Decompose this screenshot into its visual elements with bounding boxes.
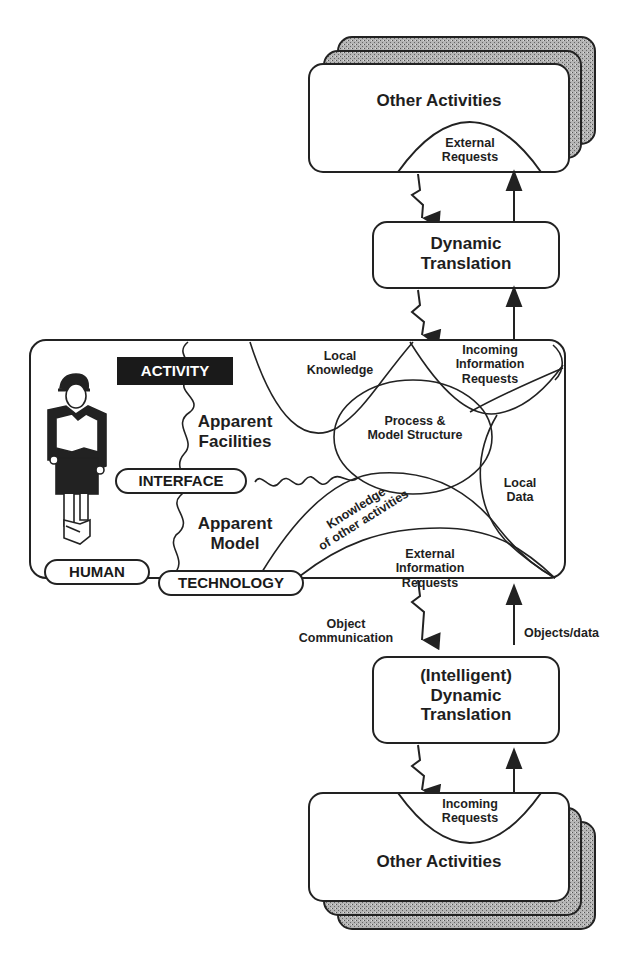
apparent-model-line-1: Apparent [190,514,280,534]
objects-data-label: Objects/data [524,626,624,640]
bottom-lower-arrows [412,745,521,793]
top-translation-line-2: Translation [373,254,559,274]
incoming-info-line-3: Requests [435,372,545,386]
incoming-requests-line-1: Incoming [420,797,520,811]
human-pill: HUMAN [44,559,150,585]
activity-badge: ACTIVITY [117,357,233,385]
interface-pill: INTERFACE [115,468,247,494]
local-data-label: Local Data [490,476,550,505]
technology-pill: TECHNOLOGY [158,570,304,596]
external-requests-label: External Requests [420,136,520,165]
bottom-stack-title: Other Activities [309,852,569,872]
intelligent-translation-line-3: Translation [373,705,559,725]
process-model-line-2: Model Structure [350,428,480,442]
apparent-facilities-label: Apparent Facilities [190,412,280,451]
top-translation-line-1: Dynamic [373,234,559,254]
intelligent-translation-line-2: Dynamic [373,686,559,706]
external-requests-line-2: Requests [420,150,520,164]
process-model-structure-label: Process & Model Structure [350,414,480,443]
local-data-line-2: Data [490,490,550,504]
apparent-facilities-line-2: Facilities [190,432,280,452]
apparent-facilities-line-1: Apparent [190,412,280,432]
incoming-info-line-1: Incoming [435,343,545,357]
local-knowledge-line-1: Local [290,349,390,363]
top-arrows [412,172,521,222]
local-data-line-1: Local [490,476,550,490]
incoming-information-requests-label: Incoming Information Requests [435,343,545,386]
external-information-requests-label: External Information Requests [380,547,480,590]
apparent-model-line-2: Model [190,534,280,554]
intelligent-translation-label: (Intelligent) Dynamic Translation [373,666,559,725]
top-stack-title: Other Activities [309,91,569,111]
process-model-line-1: Process & [350,414,480,428]
external-requests-line-1: External [420,136,520,150]
translation-to-activity-arrows [412,288,521,340]
external-info-line-3: Requests [380,576,480,590]
incoming-requests-line-2: Requests [420,811,520,825]
incoming-info-line-2: Information [435,357,545,371]
external-info-line-1: External [380,547,480,561]
intelligent-translation-line-1: (Intelligent) [373,666,559,686]
external-info-line-2: Information [380,561,480,575]
apparent-model-label: Apparent Model [190,514,280,553]
incoming-requests-label: Incoming Requests [420,797,520,826]
local-knowledge-label: Local Knowledge [290,349,390,378]
object-communication-label: Object Communication [286,617,406,646]
object-communication-line-1: Object [286,617,406,631]
top-dynamic-translation-label: Dynamic Translation [373,234,559,273]
local-knowledge-line-2: Knowledge [290,363,390,377]
object-communication-line-2: Communication [286,631,406,645]
